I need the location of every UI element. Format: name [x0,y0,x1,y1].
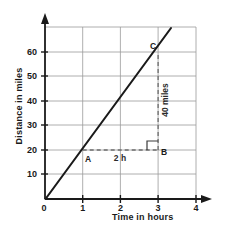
point-label-b: B [161,147,167,157]
distance-time-graph: 10 20 30 40 50 60 0 1 2 3 4 A B C 2 h [0,0,229,230]
point-label-a: A [85,154,91,164]
y-tick-label-60: 60 [27,47,37,57]
point-label-c: C [150,41,156,51]
x-tick-label-0: 0 [41,203,46,213]
x-axis-arrow-icon [201,195,212,203]
data-line-distance [46,28,172,199]
tick-marks [41,52,196,203]
x-axis-title: Time in hours [112,212,173,222]
y-axis-arrow-icon [41,13,49,24]
run-annotation-label: 2 h [114,153,126,163]
x-tick-label-1: 1 [80,203,85,213]
y-tick-label-50: 50 [27,71,37,81]
y-tick-label-10: 10 [27,169,37,179]
y-tick-label-40: 40 [27,96,37,106]
axes [41,13,212,203]
y-tick-label-30: 30 [27,120,37,130]
chart-canvas: 10 20 30 40 50 60 0 1 2 3 4 A B C 2 h [0,0,229,230]
y-axis-title: Distance in miles [14,46,24,166]
rise-annotation-label: 40 miles [160,83,170,117]
x-tick-label-4: 4 [193,203,198,213]
y-tick-label-20: 20 [27,145,37,155]
y-tick-labels: 10 20 30 40 50 60 [27,47,37,179]
right-angle-marker-icon [147,141,158,150]
grid-lines [45,27,196,199]
